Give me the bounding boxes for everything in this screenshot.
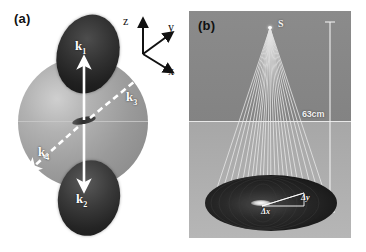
axis-x-arrow xyxy=(143,54,169,70)
k4-sub: 4 xyxy=(45,153,49,162)
k1-label: k1 xyxy=(75,38,86,56)
axis-y-arrow xyxy=(143,35,169,54)
delta-x-label: Δx xyxy=(261,207,270,216)
axis-x-label: x xyxy=(168,64,174,79)
k2-sub: 2 xyxy=(83,200,87,209)
k2-label: k2 xyxy=(76,191,87,209)
panel-a-letter: (a) xyxy=(14,11,31,26)
detector-disc xyxy=(205,175,337,231)
k3-sub: 3 xyxy=(133,98,137,107)
k1-sub: 1 xyxy=(82,47,86,56)
k4-label: k4 xyxy=(38,144,49,162)
figure-container: k1 k2 k3 k4 z y x xyxy=(0,0,366,252)
axis-z-label: z xyxy=(123,14,128,29)
displacement-triangle xyxy=(205,175,337,231)
panel-a: k1 k2 k3 k4 z y x xyxy=(0,0,183,252)
panel-b-letter: (b) xyxy=(198,18,215,33)
panel-b: S 63cm xyxy=(189,11,351,238)
scale-distance-label: 63cm xyxy=(302,109,324,119)
delta-y-label: Δy xyxy=(301,193,310,202)
k3-label: k3 xyxy=(126,89,137,107)
axis-y-label: y xyxy=(168,20,174,35)
coordinate-axes: z y x xyxy=(121,14,181,82)
